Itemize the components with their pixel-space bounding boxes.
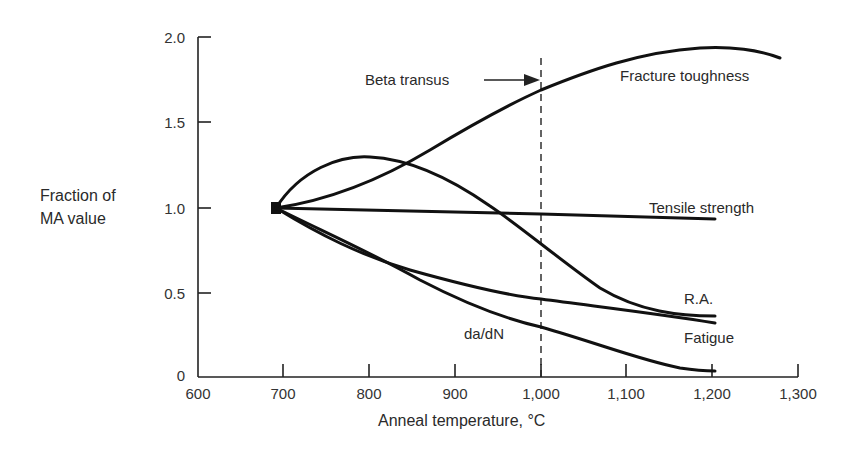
y-tick-label: 1.5	[145, 115, 185, 130]
dadn-label: da/dN	[464, 326, 504, 341]
beta-transus-label: Beta transus	[365, 72, 449, 87]
x-tick-label: 1,200	[682, 386, 742, 401]
x-tick-label: 1,000	[511, 386, 571, 401]
y-tick-label: 0.5	[145, 286, 185, 301]
x-axis-title: Anneal temperature, °C	[378, 413, 545, 429]
x-tick-label: 800	[339, 386, 399, 401]
x-tick-label: 700	[253, 386, 313, 401]
x-tick-label: 900	[425, 386, 485, 401]
fatigue-label: Fatigue	[684, 330, 734, 345]
tensile-strength-label: Tensile strength	[649, 200, 754, 215]
y-tick-label: 1.0	[145, 201, 185, 216]
x-tick-label: 1,300	[768, 386, 828, 401]
ra-label: R.A.	[684, 291, 713, 306]
y-axis-title-line2: MA value	[40, 211, 106, 227]
series-dadn	[276, 208, 715, 371]
y-tick-label: 0	[145, 368, 185, 383]
x-tick-label: 1,100	[596, 386, 656, 401]
fracture-toughness-label: Fracture toughness	[620, 68, 749, 83]
x-tick-label: 600	[168, 386, 228, 401]
y-axis-title-line1: Fraction of	[40, 188, 116, 204]
beta-transus-arrow	[484, 74, 540, 86]
series-fatigue	[276, 208, 715, 323]
y-tick-label: 2.0	[145, 30, 185, 45]
